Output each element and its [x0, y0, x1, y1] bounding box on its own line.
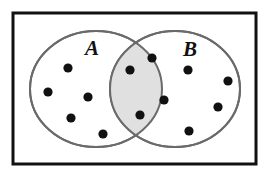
- element-dot-a-only: [43, 87, 52, 96]
- element-dot-b-only: [213, 102, 222, 111]
- element-dot-a-only: [83, 92, 92, 101]
- element-dot-intersection: [159, 95, 168, 104]
- element-dot-a-only: [66, 113, 75, 122]
- element-dot-b-only: [183, 65, 192, 74]
- element-dot-intersection: [125, 65, 134, 74]
- element-dot-b-only: [184, 126, 193, 135]
- set-b-label: B: [182, 37, 197, 61]
- element-dot-intersection: [135, 110, 144, 119]
- element-dot-a-only: [98, 129, 107, 138]
- element-dot-intersection: [147, 53, 156, 62]
- venn-diagram-canvas: A B: [0, 0, 269, 172]
- element-dot-b-only: [223, 76, 232, 85]
- set-a-label: A: [83, 36, 99, 60]
- element-dot-a-only: [63, 63, 72, 72]
- venn-diagram-figure: A B: [0, 0, 269, 172]
